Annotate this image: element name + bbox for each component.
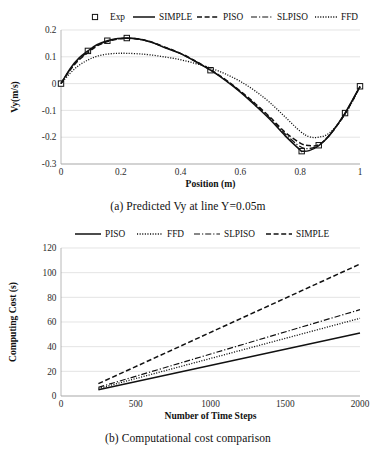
legend-item-exp: Exp	[92, 12, 125, 22]
y-tick-label: 80	[47, 293, 57, 303]
legend-item-simple: SIMPLE	[266, 229, 329, 239]
y-tick-label: 0	[52, 391, 57, 401]
legend-item-ffd: FFD	[137, 229, 184, 239]
chart-legend: ExpSIMPLEPISOSLPISOFFD	[92, 12, 358, 22]
y-tick-label: 40	[47, 342, 57, 352]
legend-label: SLPISO	[224, 229, 255, 239]
computing-cost-chart: PISOFFDSLPISOSIMPLE020406080100120050010…	[0, 220, 376, 432]
y-tick-label: 0	[52, 79, 57, 89]
series-simple-line	[98, 264, 360, 384]
vy-position-chart: ExpSIMPLEPISOSLPISOFFD0.20.10-0.1-0.2-0.…	[0, 0, 376, 200]
x-tick-label: 1000	[201, 399, 220, 409]
panel-b-caption: (b) Computational cost comparison	[0, 432, 376, 444]
legend-item-piso: PISO	[75, 229, 125, 239]
x-tick-label: 0.6	[235, 167, 247, 177]
y-tick-label: -0.2	[42, 132, 57, 142]
x-tick-label: 0.8	[294, 167, 306, 177]
y-tick-label: -0.1	[42, 106, 57, 116]
y-tick-label: 20	[47, 367, 57, 377]
legend-label: SIMPLE	[296, 229, 329, 239]
legend-item-piso: PISO	[197, 12, 243, 22]
legend-label: PISO	[105, 229, 125, 239]
series-group	[58, 35, 362, 153]
x-tick-label: 1500	[276, 399, 295, 409]
x-axis-title: Number of Time Steps	[165, 410, 257, 421]
chart-panel-b: PISOFFDSLPISOSIMPLE020406080100120050010…	[0, 220, 376, 457]
x-tick-label: 1	[358, 167, 363, 177]
series-simple-line	[61, 38, 360, 152]
panel-a-caption: (a) Predicted Vy at line Y=0.05m	[0, 200, 376, 212]
series-ffd-line	[61, 53, 360, 137]
x-tick-label: 0	[59, 167, 64, 177]
figure-container: ExpSIMPLEPISOSLPISOFFD0.20.10-0.1-0.2-0.…	[0, 0, 376, 457]
y-tick-label: 0.2	[45, 25, 57, 35]
x-tick-label: 0.4	[175, 167, 187, 177]
axes	[61, 30, 360, 164]
legend-label: Exp	[110, 12, 125, 22]
legend-label: PISO	[223, 12, 243, 22]
x-tick-label: 500	[129, 399, 143, 409]
series-piso-line	[98, 333, 360, 390]
legend-item-slpiso: SLPISO	[194, 229, 255, 239]
legend-label: FFD	[167, 229, 184, 239]
y-tick-label: 100	[43, 268, 57, 278]
y-tick-label: -0.3	[42, 159, 57, 169]
series-ffd-line	[98, 318, 360, 388]
series-exp-markers	[58, 35, 362, 153]
series-group	[98, 264, 360, 390]
chart-panel-a: ExpSIMPLEPISOSLPISOFFD0.20.10-0.1-0.2-0.…	[0, 0, 376, 220]
x-axis-title: Position (m)	[186, 178, 236, 190]
legend-item-simple: SIMPLE	[133, 12, 192, 22]
x-tick-label: 0	[59, 399, 64, 409]
y-tick-label: 0.1	[45, 52, 57, 62]
x-tick-label: 0.2	[115, 167, 127, 177]
gridlines	[61, 30, 360, 164]
x-tick-label: 2000	[351, 399, 370, 409]
legend-item-slpiso: SLPISO	[251, 12, 308, 22]
legend-label: FFD	[341, 12, 358, 22]
chart-legend: PISOFFDSLPISOSIMPLE	[75, 229, 329, 239]
y-axis-title: Computing Cost (s)	[7, 282, 19, 362]
y-tick-label: 60	[47, 317, 57, 327]
gridlines	[61, 248, 360, 396]
tick-labels: 0204060801001200500100015002000	[43, 243, 370, 409]
series-slpiso-line	[98, 310, 360, 388]
legend-item-ffd: FFD	[315, 12, 358, 22]
y-tick-label: 120	[43, 243, 57, 253]
y-axis-title: Vy(m/s)	[9, 81, 21, 113]
legend-label: SIMPLE	[159, 12, 192, 22]
legend-label: SLPISO	[277, 12, 308, 22]
